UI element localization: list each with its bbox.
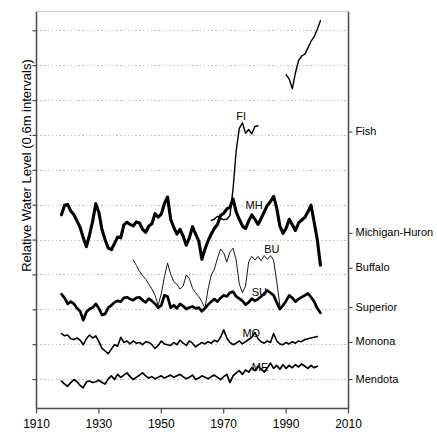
inline-label-me: ME: [252, 361, 269, 373]
mendota-right-label: Mendota: [356, 373, 399, 385]
x-tick-label-1930: 1930: [86, 417, 113, 431]
inline-label-mh: MH: [246, 199, 263, 211]
inline-label-mo: MO: [242, 327, 260, 339]
series-michigan-huron: [61, 196, 320, 265]
x-tick-label-1950: 1950: [148, 417, 175, 431]
x-tick-label-1910: 1910: [23, 417, 50, 431]
axis-frame: [37, 12, 349, 409]
x-tick-label-1990: 1990: [273, 417, 300, 431]
inline-label-su: SU: [252, 286, 267, 298]
series-fish: [211, 21, 320, 221]
data-series-group: [61, 21, 320, 388]
buffalo-right-label: Buffalo: [356, 261, 390, 273]
x-tick-label-1970: 1970: [210, 417, 237, 431]
series-superior: [61, 291, 320, 321]
superior-right-label: Superior: [356, 301, 398, 313]
series-mendota: [61, 363, 317, 387]
series-monona: [61, 330, 317, 354]
chart-root: Relative Water Level (0.6m intervals) 19…: [0, 0, 437, 448]
x-tick-label-2010: 2010: [335, 417, 362, 431]
michigan-huron-right-label: Michigan-Huron: [356, 226, 434, 238]
fish-right-label: Fish: [356, 125, 377, 137]
inline-label-fi: FI: [236, 110, 246, 122]
gridlines: [37, 31, 349, 380]
inline-label-bu: BU: [264, 243, 279, 255]
monona-right-label: Monona: [356, 335, 396, 347]
